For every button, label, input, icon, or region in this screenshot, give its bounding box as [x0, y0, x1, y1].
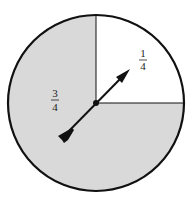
fraction-one-quarter-numerator: 1: [140, 47, 146, 59]
fraction-three-quarters-denominator: 4: [52, 101, 58, 113]
spinner-diagram: 1 4 3 4: [0, 0, 195, 203]
spinner-pivot: [93, 100, 99, 106]
fraction-three-quarters-numerator: 3: [52, 87, 58, 99]
fraction-one-quarter-denominator: 4: [140, 60, 146, 72]
